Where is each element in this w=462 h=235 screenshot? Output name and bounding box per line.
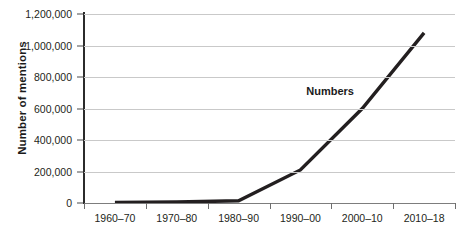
- y-axis-tick-label: 600,000: [0, 103, 72, 115]
- y-axis-tick-label: 1,200,000: [0, 8, 72, 20]
- plot-area: [84, 14, 455, 203]
- x-axis-tick-labels: 1960–701970–801980–901990–002000–102010–…: [84, 212, 455, 232]
- x-axis-tick-mark: [146, 203, 147, 209]
- x-axis-tick-label: 1960–70: [94, 212, 135, 224]
- gridline: [84, 46, 455, 47]
- y-axis-tick-mark: [77, 140, 83, 141]
- y-axis-tick-mark: [77, 77, 83, 78]
- y-axis-tick-label: 0: [0, 197, 72, 209]
- x-axis-tick-label: 2000–10: [342, 212, 383, 224]
- gridline: [84, 140, 455, 141]
- x-axis-tick-mark: [270, 203, 271, 209]
- y-axis-tick-labels: 0200,000400,000600,000800,0001,000,0001,…: [0, 0, 78, 235]
- y-axis-tick-label: 1,000,000: [0, 40, 72, 52]
- gridline: [84, 77, 455, 78]
- y-axis-tick-label: 200,000: [0, 166, 72, 178]
- gridline: [84, 109, 455, 110]
- x-axis-tick-label: 1980–90: [218, 212, 259, 224]
- x-axis-tick-mark: [393, 203, 394, 209]
- y-axis-tick-mark: [77, 171, 83, 172]
- y-axis-tick-label: 800,000: [0, 71, 72, 83]
- series-label-numbers: Numbers: [306, 85, 354, 97]
- y-axis-tick-mark: [77, 203, 83, 204]
- gridline: [84, 172, 455, 173]
- y-axis-tick-mark: [77, 45, 83, 46]
- line-chart: Number of mentions 0200,000400,000600,00…: [0, 0, 462, 235]
- x-axis-tick-label: 1970–80: [156, 212, 197, 224]
- y-axis-tick-mark: [77, 14, 83, 15]
- x-axis-tick-mark: [208, 203, 209, 209]
- x-axis-tick-mark: [331, 203, 332, 209]
- x-axis-tick-label: 2010–18: [404, 212, 445, 224]
- x-axis-tick-mark: [455, 203, 456, 209]
- gridline: [84, 14, 455, 15]
- x-axis-tick-mark: [84, 203, 85, 209]
- x-axis-tick-label: 1990–00: [280, 212, 321, 224]
- y-axis-tick-label: 400,000: [0, 134, 72, 146]
- y-axis-tick-mark: [77, 108, 83, 109]
